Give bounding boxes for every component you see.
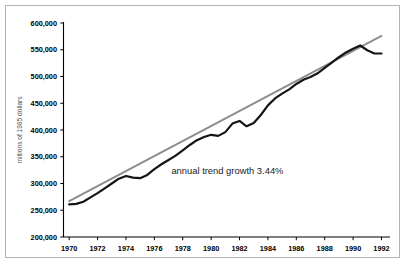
x-tick-label: 1970 (61, 244, 77, 253)
x-axis-ticks: 1970197219741976197819801982198419861988… (61, 237, 390, 253)
y-tick-label: 550,000 (31, 45, 57, 54)
y-tick-label: 450,000 (31, 99, 57, 108)
chart-figure: 200,000250,000300,000350,000400,000450,0… (0, 0, 406, 264)
y-tick-label: 200,000 (31, 233, 57, 242)
x-tick-label: 1982 (231, 244, 247, 253)
x-tick-label: 1986 (288, 244, 304, 253)
actual-line-series (69, 45, 381, 204)
y-tick-label: 350,000 (31, 152, 57, 161)
y-axis-label: millions of 1985 dollars (16, 96, 23, 164)
x-tick-label: 1976 (146, 244, 162, 253)
y-tick-label: 400,000 (31, 126, 57, 135)
x-tick-label: 1972 (89, 244, 105, 253)
x-tick-label: 1984 (260, 244, 277, 253)
y-tick-label: 300,000 (31, 179, 57, 188)
y-tick-label: 250,000 (31, 206, 57, 215)
x-tick-label: 1978 (175, 244, 191, 253)
x-tick-label: 1974 (118, 244, 135, 253)
line-chart: 200,000250,000300,000350,000400,000450,0… (0, 0, 406, 264)
plot-area: 200,000250,000300,000350,000400,000450,0… (0, 0, 406, 264)
x-tick-label: 1990 (345, 244, 361, 253)
x-tick-label: 1992 (373, 244, 389, 253)
x-tick-label: 1988 (317, 244, 333, 253)
y-tick-label: 500,000 (31, 72, 57, 81)
x-tick-label: 1980 (203, 244, 219, 253)
y-axis-ticks: 200,000250,000300,000350,000400,000450,0… (31, 19, 64, 242)
chart-annotations: annual trend growth 3.44% (171, 165, 283, 176)
y-tick-label: 600,000 (31, 19, 57, 28)
trend-growth-annotation: annual trend growth 3.44% (171, 165, 283, 176)
